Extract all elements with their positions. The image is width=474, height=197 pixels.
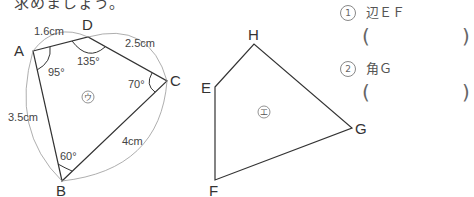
question-2-text: 角Ｇ [366,61,392,76]
angle-arc-d [72,41,105,53]
quadrilateral-e: E H G F エ [201,26,367,197]
quadrilateral-u: A D C B 1.6cm 2.5cm 3.5cm 4cm 95° 135° 7… [8,16,181,197]
answer-2-field[interactable] [374,84,458,104]
answer-1-close-paren: ) [462,24,470,48]
vertex-h: H [248,26,259,43]
answer-1-open-paren: ( [362,24,370,48]
angle-arc-c [149,73,155,92]
side-ad-label: 1.6cm [34,25,64,37]
question-1: 1辺ＥＦ [340,2,405,21]
question-1-number: 1 [340,5,356,21]
vertex-e: E [201,79,211,96]
question-2-number: 2 [340,61,356,77]
angle-d-label: 135° [77,55,100,67]
side-bc-label: 4cm [122,135,143,147]
vertex-d: D [82,16,93,33]
vertex-b: B [56,182,66,197]
question-2: 2角Ｇ [340,58,392,77]
figure-u-label: ウ [84,93,92,102]
answer-2-close-paren: ) [462,80,470,104]
answer-2-open-paren: ( [362,80,370,104]
figure-e-label: エ [260,108,268,117]
vertex-a: A [14,42,24,59]
question-1-text: 辺ＥＦ [366,5,405,20]
angle-b-label: 60° [60,150,77,162]
angle-c-label: 70° [128,78,145,90]
angle-a-label: 95° [48,66,65,78]
vertex-f: F [209,182,218,197]
vertex-g: G [355,120,367,137]
answer-1-field[interactable] [374,28,458,48]
side-ab-label: 3.5cm [8,111,38,123]
side-dc-label: 2.5cm [125,37,155,49]
vertex-c: C [170,72,181,89]
